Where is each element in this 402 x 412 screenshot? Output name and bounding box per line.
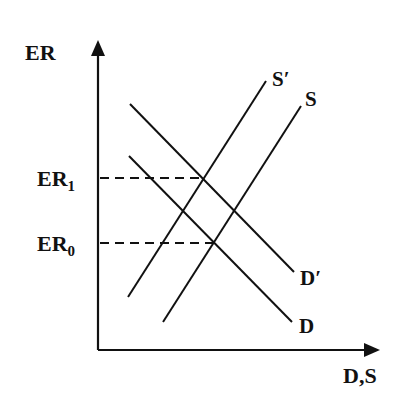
er0-label-sub: 0	[68, 243, 76, 259]
er1-label-base: ER	[37, 166, 69, 191]
s-prime-label: S′	[272, 67, 290, 91]
d-label: D	[299, 314, 314, 338]
demand-curve-d	[129, 156, 292, 322]
s-label: S	[305, 87, 317, 111]
s-prime-label-prime: ′	[284, 67, 290, 91]
y-axis-arrow-icon	[91, 40, 105, 56]
y-axis-label: ER	[25, 40, 57, 65]
d-prime-label-prime: ′	[315, 266, 321, 290]
er0-label: ER0	[37, 231, 75, 259]
er1-label-sub: 1	[68, 178, 76, 194]
d-label-base: D	[299, 314, 314, 338]
supply-demand-diagram: ER D,S ER1 ER0 S′ S D′ D	[0, 0, 402, 412]
x-axis-label: D,S	[343, 363, 377, 388]
diagram-canvas: ER D,S ER1 ER0 S′ S D′ D	[0, 0, 402, 412]
x-axis-arrow-icon	[364, 343, 380, 357]
d-prime-label-base: D	[300, 266, 315, 290]
s-prime-label-base: S	[272, 67, 284, 91]
er1-label: ER1	[37, 166, 75, 194]
supply-curve-s-prime	[128, 81, 266, 297]
d-prime-label: D′	[300, 266, 321, 290]
supply-curve-s	[163, 106, 301, 322]
er0-label-base: ER	[37, 231, 69, 256]
s-label-base: S	[305, 87, 317, 111]
